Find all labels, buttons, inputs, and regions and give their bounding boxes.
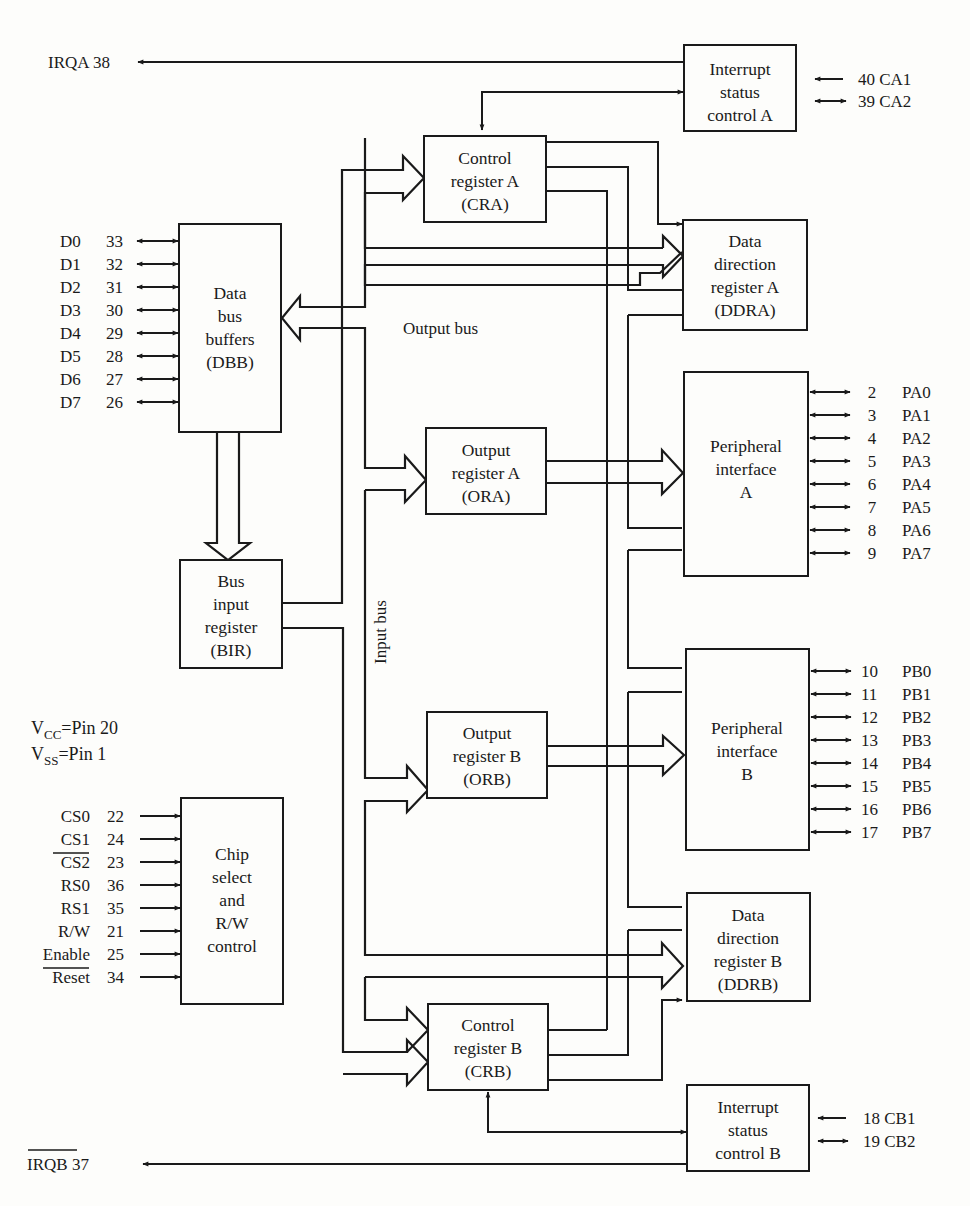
- port-a-pin: 3PA1: [810, 406, 931, 425]
- svg-text:VSS=Pin 1: VSS=Pin 1: [31, 744, 106, 768]
- svg-text:D7: D7: [60, 393, 81, 412]
- svg-text:Chip: Chip: [215, 844, 249, 864]
- control-pin: RS036: [61, 876, 180, 895]
- svg-text:14: 14: [861, 754, 879, 773]
- control-pin: Reset34: [43, 968, 180, 987]
- data-pin: D429: [60, 324, 178, 343]
- svg-text:VCC=Pin 20: VCC=Pin 20: [31, 718, 118, 742]
- svg-text:Output: Output: [462, 440, 511, 460]
- port-b-pin: 17PB7: [811, 823, 932, 842]
- data-pin: D132: [60, 255, 178, 274]
- svg-text:R/W: R/W: [215, 913, 249, 933]
- svg-text:12: 12: [861, 708, 878, 727]
- svg-text:17: 17: [861, 823, 879, 842]
- svg-text:PA7: PA7: [902, 544, 931, 563]
- svg-text:B: B: [741, 764, 753, 784]
- svg-text:PB5: PB5: [902, 777, 931, 796]
- svg-text:(CRA): (CRA): [461, 194, 509, 214]
- input-bus-label: Input bus: [371, 600, 390, 664]
- svg-text:Control: Control: [458, 148, 512, 168]
- data-pins: D033 D132 D231 D330 D429 D528 D627 D726: [60, 232, 178, 412]
- cb2-pin-label: 19 CB2: [863, 1132, 915, 1151]
- svg-text:36: 36: [107, 876, 124, 895]
- irqa-pin-label: IRQA 38: [48, 53, 110, 72]
- svg-text:D1: D1: [60, 255, 81, 274]
- svg-text:PB2: PB2: [902, 708, 931, 727]
- ora-to-pia-bus: [546, 450, 683, 494]
- svg-text:Interrupt: Interrupt: [717, 1097, 778, 1117]
- svg-text:control A: control A: [707, 105, 773, 125]
- port-b-pins: 10PB0 11PB1 12PB2 13PB3 14PB4 15PB5 16PB…: [811, 662, 932, 842]
- svg-text:interface: interface: [716, 741, 777, 761]
- data-pin: D726: [60, 393, 178, 412]
- svg-text:26: 26: [106, 393, 123, 412]
- svg-text:R/W: R/W: [58, 922, 91, 941]
- svg-text:D2: D2: [60, 278, 81, 297]
- svg-text:3: 3: [868, 406, 877, 425]
- block-ora: Output register A (ORA): [426, 428, 546, 514]
- svg-text:22: 22: [107, 807, 124, 826]
- ca2-pin-label: 39 CA2: [858, 92, 911, 111]
- svg-text:30: 30: [106, 301, 123, 320]
- port-b-pin: 11PB1: [811, 685, 931, 704]
- block-bir: Bus input register (BIR): [180, 560, 282, 668]
- control-pins: CS022 CS124 CS223 RS036 RS135 R/W21 Enab…: [43, 807, 180, 987]
- svg-text:PA2: PA2: [902, 429, 931, 448]
- svg-text:27: 27: [106, 370, 124, 389]
- block-iscb: Interrupt status control B: [687, 1085, 809, 1171]
- port-a-pin: 5PA3: [810, 452, 931, 471]
- data-pin: D330: [60, 301, 178, 320]
- svg-text:CS1: CS1: [61, 830, 90, 849]
- block-pib: Peripheral interface B: [686, 649, 809, 850]
- orb-to-pib-bus: [548, 736, 684, 775]
- svg-text:15: 15: [861, 777, 878, 796]
- control-pin: CS223: [53, 853, 180, 872]
- svg-text:Data: Data: [213, 283, 246, 303]
- block-ddrb: Data direction register B (DDRB): [687, 893, 810, 1001]
- block-dbb: Data bus buffers (DBB): [179, 224, 281, 432]
- port-b-pin: 13PB3: [811, 731, 931, 750]
- svg-text:PA3: PA3: [902, 452, 931, 471]
- port-a-pin: 6PA4: [810, 475, 931, 494]
- svg-text:Enable: Enable: [43, 945, 90, 964]
- svg-text:direction: direction: [717, 928, 779, 948]
- port-b-pin: 10PB0: [811, 662, 931, 681]
- svg-text:register B: register B: [714, 951, 783, 971]
- svg-text:7: 7: [868, 498, 877, 517]
- svg-text:PA1: PA1: [902, 406, 931, 425]
- control-pin: CS124: [61, 830, 180, 849]
- svg-text:29: 29: [106, 324, 123, 343]
- svg-text:13: 13: [861, 731, 878, 750]
- svg-text:4: 4: [868, 429, 877, 448]
- svg-text:Data: Data: [728, 231, 761, 251]
- svg-text:select: select: [212, 867, 252, 887]
- svg-text:input: input: [213, 594, 249, 614]
- svg-text:PB3: PB3: [902, 731, 931, 750]
- svg-text:(DBB): (DBB): [206, 352, 254, 372]
- block-isca: Interrupt status control A: [684, 45, 796, 131]
- svg-text:PA5: PA5: [902, 498, 931, 517]
- svg-text:D3: D3: [60, 301, 81, 320]
- block-cra: Control register A (CRA): [424, 136, 546, 222]
- svg-text:33: 33: [106, 232, 123, 251]
- svg-text:PB1: PB1: [902, 685, 931, 704]
- port-a-pin: 8PA6: [810, 521, 931, 540]
- port-a-pin: 7PA5: [810, 498, 931, 517]
- svg-text:35: 35: [107, 899, 124, 918]
- svg-text:D5: D5: [60, 347, 81, 366]
- svg-text:register B: register B: [454, 1038, 523, 1058]
- data-pin: D231: [60, 278, 178, 297]
- svg-text:5: 5: [868, 452, 877, 471]
- svg-text:PA0: PA0: [902, 383, 931, 402]
- power-vcc-label: VCC=Pin 20: [31, 718, 118, 742]
- svg-text:register A: register A: [711, 277, 780, 297]
- svg-text:register B: register B: [453, 746, 522, 766]
- svg-text:RS1: RS1: [61, 899, 90, 918]
- ca1-pin-label: 40 CA1: [858, 70, 911, 89]
- svg-text:16: 16: [861, 800, 878, 819]
- control-pin: Enable25: [43, 945, 180, 964]
- control-pin: RS135: [61, 899, 180, 918]
- svg-text:24: 24: [107, 830, 125, 849]
- cb1-pin-label: 18 CB1: [863, 1109, 915, 1128]
- svg-text:8: 8: [868, 521, 877, 540]
